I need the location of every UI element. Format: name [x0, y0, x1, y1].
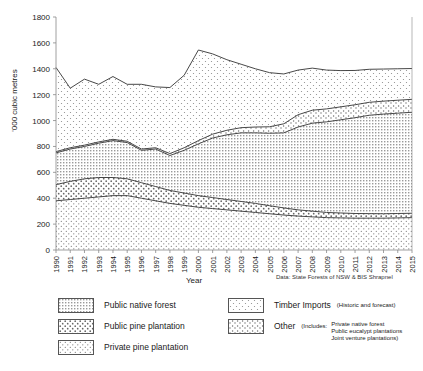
source-note: Data: State Forests of NSW & BIS Shrapne…: [276, 274, 393, 280]
svg-text:2009: 2009: [323, 256, 332, 273]
legend-swatch: [58, 340, 94, 355]
svg-text:2015: 2015: [408, 256, 417, 273]
svg-text:2010: 2010: [337, 256, 346, 273]
area-chart-plot: 020040060080010001200140016001800 199019…: [0, 0, 423, 296]
legend-item: Public pine plantation: [58, 319, 185, 334]
svg-text:1600: 1600: [32, 39, 50, 48]
legend-sub-line: Public eucalypt plantations: [331, 328, 402, 335]
svg-text:200: 200: [37, 220, 51, 229]
legend-swatch: [228, 298, 264, 313]
legend-label: Private pine plantation: [104, 340, 188, 355]
svg-text:1200: 1200: [32, 91, 50, 100]
svg-text:2000: 2000: [194, 256, 203, 273]
svg-text:1998: 1998: [166, 256, 175, 273]
legend-swatch: [58, 319, 94, 334]
legend-label: Timber Imports: [274, 298, 331, 313]
svg-text:2013: 2013: [380, 256, 389, 273]
svg-text:1400: 1400: [32, 65, 50, 74]
svg-text:2014: 2014: [394, 256, 403, 273]
x-axis-tick-labels: 1990199119921993199419951996199719981999…: [52, 256, 417, 273]
legend-sub-line: Private native forest: [331, 321, 402, 328]
chart-legend: Public native forestPublic pine plantati…: [0, 296, 423, 371]
svg-text:1993: 1993: [95, 256, 104, 273]
svg-text:2008: 2008: [308, 256, 317, 273]
svg-text:0: 0: [46, 246, 51, 255]
svg-text:1996: 1996: [137, 256, 146, 273]
chart-container: '000 cubic metres Year Data: State Fores…: [0, 0, 423, 371]
legend-label: Public pine plantation: [104, 319, 185, 334]
legend-sub-line: Joint venture plantations): [331, 335, 402, 342]
legend-item: Private pine plantation: [58, 340, 188, 355]
legend-note: (Historic and forecast): [337, 298, 396, 313]
svg-text:1999: 1999: [180, 256, 189, 273]
x-axis-title: Year: [186, 276, 202, 285]
svg-text:2011: 2011: [351, 256, 360, 272]
svg-text:2004: 2004: [251, 256, 260, 273]
legend-item: Public native forest: [58, 298, 176, 313]
legend-swatch: [228, 319, 264, 334]
svg-text:1000: 1000: [32, 117, 50, 126]
svg-text:400: 400: [37, 194, 51, 203]
legend-label: Other: [274, 319, 295, 334]
legend-label: Public native forest: [104, 298, 176, 313]
y-axis-tick-labels: 020040060080010001200140016001800: [32, 13, 50, 255]
svg-text:2006: 2006: [280, 256, 289, 273]
y-axis-title: '000 cubic metres: [10, 41, 19, 161]
svg-text:2005: 2005: [266, 256, 275, 273]
svg-text:600: 600: [37, 168, 51, 177]
svg-text:1997: 1997: [152, 256, 161, 273]
svg-text:1995: 1995: [123, 256, 132, 273]
legend-swatch: [58, 298, 94, 313]
svg-text:2007: 2007: [294, 256, 303, 273]
stacked-areas: [56, 50, 412, 250]
legend-item: Timber Imports(Historic and forecast): [228, 298, 396, 313]
svg-text:800: 800: [37, 142, 51, 151]
legend-item: Other(Includes:Private native forestPubl…: [228, 319, 402, 343]
svg-text:2003: 2003: [237, 256, 246, 273]
svg-text:1800: 1800: [32, 13, 50, 22]
legend-note: (Includes:: [301, 319, 327, 334]
svg-text:1992: 1992: [80, 256, 89, 273]
svg-text:1994: 1994: [109, 256, 118, 273]
svg-text:2012: 2012: [365, 256, 374, 273]
svg-text:2002: 2002: [223, 256, 232, 273]
svg-text:1991: 1991: [66, 256, 75, 273]
svg-text:2001: 2001: [209, 256, 218, 273]
svg-text:1990: 1990: [52, 256, 61, 273]
legend-sub-lines: Private native forestPublic eucalypt pla…: [331, 319, 402, 343]
